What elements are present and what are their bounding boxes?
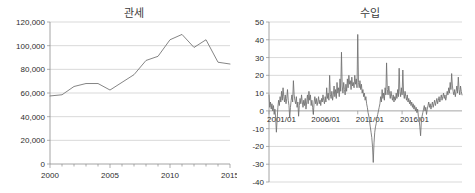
y-tick-label: 80,000 (21, 65, 46, 74)
chart-panel-customs-duty: 관세 120,000100,00080,00060,00040,00020,00… (0, 0, 237, 193)
y-tick-label: 20,000 (21, 136, 46, 145)
y-tick-label: 60,000 (21, 89, 46, 98)
x-tick-label: 2015 (221, 171, 237, 180)
y-tick-label: 0 (260, 107, 265, 116)
y-tick-label: 100,000 (16, 42, 45, 51)
x-tick-label: 2011/01 (356, 115, 385, 124)
y-tick-label: 40,000 (21, 113, 46, 122)
y-tick-label: -10 (252, 125, 264, 134)
y-tick-label: 40 (255, 36, 264, 45)
y-tick-label: 10 (255, 89, 264, 98)
y-tick-label: -40 (252, 178, 264, 187)
y-tick-label: 30 (255, 54, 264, 63)
data-series-imports (269, 34, 462, 162)
chart-svg-customs-duty: 120,000100,00080,00060,00040,00020,00002… (0, 0, 237, 193)
x-tick-label: 2006/01 (311, 115, 340, 124)
chart-panel-imports: 수입 50403020100-10-20-30-402001/012006/01… (237, 0, 475, 193)
chart-title-imports: 수입 (237, 4, 475, 20)
y-tick-label: 0 (41, 160, 46, 169)
x-tick-label: 2010 (161, 171, 179, 180)
chart-title-customs-duty: 관세 (0, 4, 253, 20)
chart-svg-imports: 50403020100-10-20-30-402001/012006/01201… (237, 0, 475, 193)
y-tick-label: -20 (252, 142, 264, 151)
x-tick-label: 2016/01 (400, 115, 429, 124)
x-tick-label: 2001/01 (267, 115, 296, 124)
data-series-customs-duty (50, 34, 230, 96)
figure-root: 관세 120,000100,00080,00060,00040,00020,00… (0, 0, 475, 193)
x-tick-label: 2005 (101, 171, 119, 180)
y-tick-label: 20 (255, 71, 264, 80)
x-tick-label: 2000 (41, 171, 59, 180)
y-tick-label: -30 (252, 160, 264, 169)
